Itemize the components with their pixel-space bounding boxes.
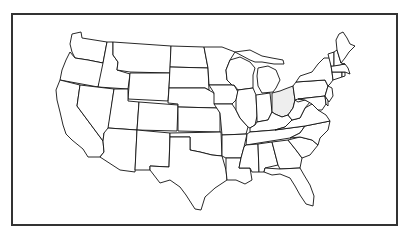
us-map xyxy=(0,0,405,234)
state-co[interactable] xyxy=(137,102,178,131)
state-az[interactable] xyxy=(100,128,137,172)
state-sd[interactable] xyxy=(169,67,209,90)
state-ri[interactable] xyxy=(342,72,345,77)
state-mt[interactable] xyxy=(113,42,171,73)
state-nd[interactable] xyxy=(170,46,208,68)
state-ct[interactable] xyxy=(332,72,342,80)
state-nm[interactable] xyxy=(135,130,170,170)
state-ks[interactable] xyxy=(178,107,220,132)
state-wy[interactable] xyxy=(128,73,170,101)
state-fl[interactable] xyxy=(264,168,314,206)
